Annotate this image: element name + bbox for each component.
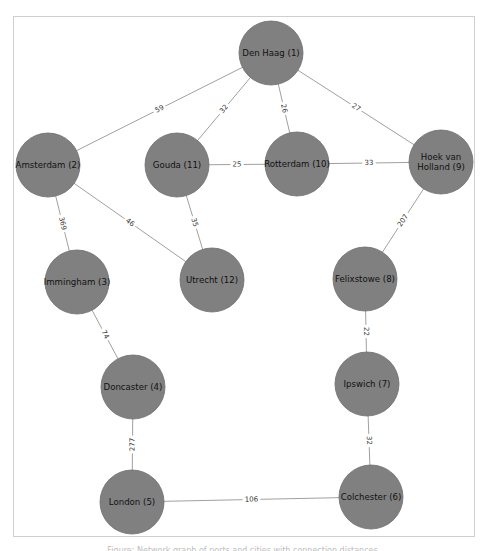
node-label: Immingham (3) bbox=[44, 277, 111, 287]
node-label: Hoek van bbox=[421, 152, 462, 162]
node-label: Den Haag (1) bbox=[242, 48, 299, 58]
node-label: Amsterdam (2) bbox=[16, 160, 81, 170]
network-graph: 5932262725333694635207742227732106 Den H… bbox=[0, 0, 485, 551]
svg-text:277: 277 bbox=[128, 438, 136, 451]
node-label: Utrecht (12) bbox=[186, 275, 238, 285]
node-12: Utrecht (12) bbox=[180, 248, 244, 312]
node-10: Rotterdam (10) bbox=[264, 132, 330, 196]
svg-text:106: 106 bbox=[245, 495, 259, 503]
node-label: Ipswich (7) bbox=[344, 379, 391, 389]
edge-weight-label: 26 bbox=[278, 101, 290, 116]
edge-weight-label: 369 bbox=[56, 214, 69, 233]
node-4: Doncaster (4) bbox=[101, 355, 165, 419]
edge-weight-label: 32 bbox=[364, 434, 373, 448]
node-8: Felixstowe (8) bbox=[333, 247, 397, 311]
edge-5-6: 106 bbox=[132, 495, 371, 504]
node-9: Hoek vanHolland (9) bbox=[409, 130, 473, 194]
node-label: Colchester (6) bbox=[341, 492, 402, 502]
node-label: London (5) bbox=[109, 497, 155, 507]
edge-weight-label: 207 bbox=[394, 211, 411, 231]
edge-weight-label: 27 bbox=[348, 100, 364, 115]
edge-weight-label: 32 bbox=[216, 101, 231, 117]
svg-text:369: 369 bbox=[57, 216, 68, 231]
node-label: Doncaster (4) bbox=[104, 382, 163, 392]
nodes-layer: Den Haag (1)Amsterdam (2)Immingham (3)Do… bbox=[16, 21, 473, 534]
node-label: Holland (9) bbox=[417, 162, 465, 172]
node-3: Immingham (3) bbox=[44, 250, 111, 314]
node-1: Den Haag (1) bbox=[239, 21, 303, 85]
svg-text:32: 32 bbox=[365, 436, 373, 445]
svg-text:33: 33 bbox=[364, 159, 373, 167]
edge-weight-label: 74 bbox=[98, 327, 112, 343]
node-6: Colchester (6) bbox=[339, 465, 403, 529]
edge-weight-label: 46 bbox=[122, 215, 138, 230]
node-11: Gouda (11) bbox=[145, 133, 209, 197]
node-label: Rotterdam (10) bbox=[264, 159, 330, 169]
edge-weight-label: 277 bbox=[128, 436, 137, 454]
node-5: London (5) bbox=[100, 470, 164, 534]
figure-caption: Figure: Network graph of ports and citie… bbox=[0, 545, 485, 551]
edge-weight-label: 59 bbox=[152, 102, 168, 116]
edge-weight-label: 25 bbox=[230, 160, 243, 169]
svg-text:25: 25 bbox=[233, 160, 242, 168]
edge-weight-label: 22 bbox=[361, 325, 370, 338]
edge-weight-label: 35 bbox=[188, 215, 200, 230]
node-label: Felixstowe (8) bbox=[335, 274, 395, 284]
node-2: Amsterdam (2) bbox=[16, 133, 81, 197]
node-7: Ipswich (7) bbox=[335, 352, 399, 416]
svg-text:22: 22 bbox=[362, 327, 370, 336]
edge-weight-label: 106 bbox=[243, 495, 261, 504]
edge-weight-label: 33 bbox=[362, 158, 375, 167]
node-label: Gouda (11) bbox=[153, 160, 201, 170]
